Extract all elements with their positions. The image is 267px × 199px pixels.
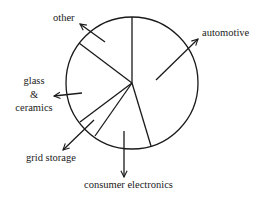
edge-glass-other bbox=[79, 43, 132, 83]
label-grid-storage: grid storage bbox=[26, 153, 76, 164]
arrow-grid-storage bbox=[63, 120, 94, 150]
label-glass-line1: glass bbox=[12, 76, 56, 87]
label-glass-ceramics: glass & ceramics bbox=[12, 76, 56, 114]
label-other: other bbox=[53, 13, 75, 24]
arrow-automotive bbox=[156, 39, 198, 80]
edge-grid-glass bbox=[80, 83, 132, 122]
arrow-other bbox=[80, 24, 105, 42]
arrow-glass-ceramics bbox=[54, 93, 82, 96]
label-glass-line2: & bbox=[12, 90, 56, 101]
label-glass-line3: ceramics bbox=[12, 103, 56, 114]
edge-automotive-consumer bbox=[132, 83, 151, 146]
label-automotive: automotive bbox=[202, 28, 249, 39]
label-consumer-electronics: consumer electronics bbox=[84, 180, 173, 191]
edge-consumer-grid bbox=[95, 83, 132, 136]
